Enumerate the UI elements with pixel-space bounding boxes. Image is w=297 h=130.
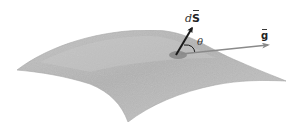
flux-diagram: d S θ g (0, 0, 297, 130)
g-label: g (261, 30, 268, 41)
ds-label-s: S (192, 12, 200, 25)
ds-label-d: d (185, 12, 192, 25)
theta-label: θ (197, 36, 203, 47)
